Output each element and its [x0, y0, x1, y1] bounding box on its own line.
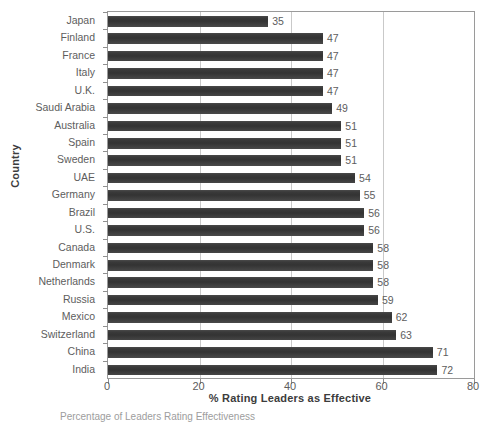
bar-india	[108, 365, 437, 376]
bar-row: 58	[108, 239, 474, 257]
category-label-australia: Australia	[54, 116, 95, 134]
bar-value-label: 59	[378, 293, 394, 307]
y-tick-mark	[103, 134, 108, 135]
bar-value-label: 58	[373, 275, 389, 289]
bar-brazil	[108, 208, 364, 219]
bar-value-label: 47	[323, 66, 339, 80]
bar-saudi-arabia	[108, 103, 332, 114]
bar-row: 71	[108, 343, 474, 361]
bar-value-label: 51	[341, 136, 357, 150]
y-tick-mark	[103, 29, 108, 30]
category-label-brazil: Brazil	[69, 203, 95, 221]
category-label-russia: Russia	[63, 290, 95, 308]
bar-switzerland	[108, 330, 396, 341]
bar-value-label: 71	[433, 345, 449, 359]
y-tick-mark	[103, 204, 108, 205]
bar-value-label: 56	[364, 206, 380, 220]
x-tick-label-0: 0	[87, 380, 127, 392]
category-label-saudi-arabia: Saudi Arabia	[35, 98, 95, 116]
category-label-denmark: Denmark	[52, 255, 95, 273]
bar-value-label: 51	[341, 153, 357, 167]
bar-finland	[108, 33, 323, 44]
category-label-india: India	[72, 360, 95, 378]
category-label-uae: UAE	[73, 168, 95, 186]
x-tick-label-40: 40	[270, 380, 310, 392]
category-label-column: JapanFinlandFranceItalyU.K.Saudi ArabiaA…	[8, 11, 101, 377]
category-label-u-k: U.K.	[75, 81, 95, 99]
bar-value-label: 49	[332, 101, 348, 115]
bar-row: 58	[108, 256, 474, 274]
y-tick-mark	[103, 361, 108, 362]
bar-value-label: 56	[364, 223, 380, 237]
bar-row: 55	[108, 186, 474, 204]
category-label-netherlands: Netherlands	[38, 272, 95, 290]
bar-row: 58	[108, 273, 474, 291]
bar-row: 63	[108, 326, 474, 344]
y-tick-mark	[103, 169, 108, 170]
bar-italy	[108, 68, 323, 79]
bar-value-label: 51	[341, 119, 357, 133]
bar-u-k	[108, 86, 323, 97]
bar-denmark	[108, 260, 373, 271]
y-tick-mark	[103, 82, 108, 83]
bar-row: 49	[108, 99, 474, 117]
y-tick-mark	[103, 47, 108, 48]
x-tick-label-20: 20	[179, 380, 219, 392]
bar-row: 47	[108, 29, 474, 47]
y-tick-mark	[103, 64, 108, 65]
category-label-germany: Germany	[52, 185, 95, 203]
category-label-switzerland: Switzerland	[41, 325, 95, 343]
y-tick-mark	[103, 343, 108, 344]
bar-uae	[108, 173, 355, 184]
figure-caption: Percentage of Leaders Rating Effectivene…	[60, 411, 460, 423]
y-tick-mark	[103, 151, 108, 152]
bar-row: 62	[108, 308, 474, 326]
category-label-japan: Japan	[66, 11, 95, 29]
bar-china	[108, 347, 433, 358]
bar-value-label: 35	[268, 14, 284, 28]
y-tick-mark	[103, 326, 108, 327]
bar-chart: Country JapanFinlandFranceItalyU.K.Saudi…	[0, 0, 495, 423]
bar-row: 54	[108, 169, 474, 187]
bar-row: 47	[108, 64, 474, 82]
y-tick-mark	[103, 239, 108, 240]
category-label-spain: Spain	[68, 133, 95, 151]
category-label-u-s: U.S.	[75, 220, 95, 238]
y-tick-mark	[103, 291, 108, 292]
y-tick-mark	[103, 99, 108, 100]
bar-row: 47	[108, 82, 474, 100]
y-tick-mark	[103, 117, 108, 118]
bar-russia	[108, 295, 378, 306]
y-tick-mark	[103, 186, 108, 187]
bar-value-label: 72	[437, 363, 453, 377]
y-tick-mark	[103, 12, 108, 13]
bar-row: 59	[108, 291, 474, 309]
bar-value-label: 62	[392, 310, 408, 324]
category-label-france: France	[62, 46, 95, 64]
bar-australia	[108, 121, 341, 132]
bar-value-label: 55	[360, 188, 376, 202]
bar-value-label: 47	[323, 31, 339, 45]
bar-row: 56	[108, 204, 474, 222]
y-tick-mark	[103, 308, 108, 309]
bar-canada	[108, 243, 373, 254]
bar-netherlands	[108, 277, 373, 288]
y-tick-mark	[103, 256, 108, 257]
y-tick-mark	[103, 273, 108, 274]
x-tick-label-60: 60	[362, 380, 402, 392]
category-label-canada: Canada	[58, 238, 95, 256]
bar-value-label: 58	[373, 258, 389, 272]
bar-row: 51	[108, 117, 474, 135]
y-tick-mark	[103, 221, 108, 222]
bar-row: 56	[108, 221, 474, 239]
bar-germany	[108, 190, 360, 201]
category-label-finland: Finland	[61, 28, 95, 46]
bar-spain	[108, 138, 341, 149]
category-label-mexico: Mexico	[62, 307, 95, 325]
bar-value-label: 47	[323, 49, 339, 63]
x-axis-title: % Rating Leaders as Effective	[107, 392, 473, 404]
bar-value-label: 47	[323, 84, 339, 98]
bar-france	[108, 51, 323, 62]
category-label-italy: Italy	[76, 63, 95, 81]
bar-sweden	[108, 155, 341, 166]
